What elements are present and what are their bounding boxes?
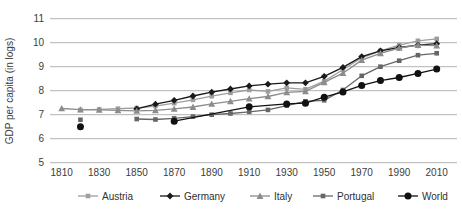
legend-label-portugal: Portugal	[337, 191, 374, 202]
legend-label-world: World	[422, 191, 448, 202]
series-world-marker-circle	[339, 88, 346, 95]
legend-label-italy: Italy	[274, 191, 292, 202]
x-tick-label-1930: 1930	[276, 167, 299, 178]
x-tick-label-1970: 1970	[351, 167, 374, 178]
series-germany-marker-diamond	[302, 79, 309, 86]
series-portugal-marker-square	[134, 117, 139, 122]
series-world-marker-circle	[171, 118, 178, 125]
series-portugal-marker-square	[228, 111, 233, 116]
series-portugal-marker-square	[78, 117, 83, 122]
x-tick-label-1990: 1990	[388, 167, 411, 178]
series-world-marker-circle	[358, 82, 365, 89]
series-world-marker-circle	[414, 70, 421, 77]
series-world-marker-circle	[433, 66, 440, 73]
series-portugal-marker-square	[359, 74, 364, 79]
series-germany-marker-diamond	[321, 73, 328, 80]
legend-world-marker-circle	[405, 193, 412, 200]
y-tick-label-7: 7	[38, 109, 44, 120]
series-germany-marker-diamond	[190, 93, 197, 100]
series-portugal-marker-square	[434, 51, 439, 56]
legend-austria-marker-square	[86, 194, 91, 199]
series-world-marker-circle	[377, 77, 384, 84]
gdp-line-chart: 5678910111810183018501870189019101930195…	[0, 0, 462, 212]
gdp-per-capita-figure: 5678910111810183018501870189019101930195…	[0, 0, 462, 212]
x-tick-label-1810: 1810	[51, 167, 74, 178]
x-tick-label-1950: 1950	[313, 167, 336, 178]
y-tick-label-6: 6	[38, 133, 44, 144]
series-germany-marker-diamond	[227, 86, 234, 93]
series-portugal-marker-square	[378, 64, 383, 69]
series-germany-marker-diamond	[246, 83, 253, 90]
series-world-marker-circle	[246, 103, 253, 110]
x-tick-label-1890: 1890	[201, 167, 224, 178]
legend-germany-marker-diamond	[167, 193, 174, 200]
series-austria-marker-square	[266, 89, 271, 94]
x-tick-label-1870: 1870	[163, 167, 186, 178]
legend-portugal-marker-square	[321, 194, 326, 199]
series-world-marker-circle	[77, 123, 84, 130]
x-tick-label-1850: 1850	[126, 167, 149, 178]
y-tick-label-8: 8	[38, 85, 44, 96]
series-germany-marker-diamond	[208, 89, 215, 96]
series-portugal-marker-square	[416, 53, 421, 58]
series-germany-marker-diamond	[265, 81, 272, 88]
legend-label-austria: Austria	[102, 191, 134, 202]
legend-label-germany: Germany	[184, 191, 225, 202]
y-tick-label-9: 9	[38, 61, 44, 72]
series-world-marker-circle	[396, 74, 403, 81]
y-tick-label-11: 11	[34, 13, 45, 24]
x-tick-label-2010: 2010	[426, 167, 449, 178]
series-germany-marker-diamond	[283, 79, 290, 86]
series-line-austria	[81, 39, 437, 110]
series-world-marker-circle	[321, 94, 328, 101]
y-axis-title: GDP per capita (in logs)	[4, 38, 15, 145]
series-portugal-marker-square	[397, 58, 402, 63]
series-world-marker-circle	[302, 100, 309, 107]
series-portugal-marker-square	[153, 117, 158, 122]
series-portugal-marker-square	[266, 108, 271, 113]
y-tick-label-10: 10	[33, 37, 45, 48]
x-tick-label-1910: 1910	[238, 167, 261, 178]
y-tick-label-5: 5	[38, 157, 44, 168]
x-tick-label-1830: 1830	[88, 167, 111, 178]
series-world-marker-circle	[283, 100, 290, 107]
series-line-germany	[137, 44, 437, 109]
